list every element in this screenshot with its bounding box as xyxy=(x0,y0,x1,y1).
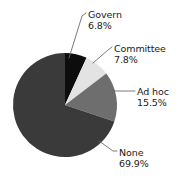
leader-line-committee xyxy=(93,47,112,63)
pie-label-adhoc-value: 15.5% xyxy=(137,97,169,108)
pie-slices xyxy=(13,53,117,157)
pie-label-adhoc: Ad hoc 15.5% xyxy=(137,86,169,108)
pie-label-committee-value: 7.8% xyxy=(114,54,166,65)
pie-label-none: None 69.9% xyxy=(119,147,149,169)
pie-chart-figure: Govern 6.8% Committee 7.8% Ad hoc 15.5% … xyxy=(0,0,182,181)
pie-label-committee-name: Committee xyxy=(114,43,166,54)
leader-line-govern xyxy=(69,13,86,58)
pie-label-none-name: None xyxy=(119,147,143,158)
pie-label-govern-value: 6.8% xyxy=(88,20,122,31)
pie-label-none-value: 69.9% xyxy=(119,158,149,169)
pie-label-committee: Committee 7.8% xyxy=(114,43,166,65)
pie-label-govern-name: Govern xyxy=(88,9,122,20)
pie-label-govern: Govern 6.8% xyxy=(88,9,122,31)
pie-label-adhoc-name: Ad hoc xyxy=(137,86,169,97)
leader-line-none xyxy=(99,141,117,151)
